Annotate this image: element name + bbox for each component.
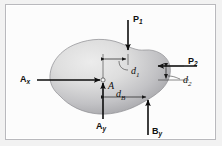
force-label-p1: P1 xyxy=(133,15,143,24)
dimension-label-d2: d2 xyxy=(183,75,192,85)
free-body-diagram-canvas xyxy=(6,5,215,139)
point-label-a: A xyxy=(108,81,114,91)
figure-panel: P1 P2 Ax Ay By A d1 d2 dB xyxy=(5,4,216,140)
dimension-label-d1: d1 xyxy=(131,66,140,76)
dimension-label-db: dB xyxy=(116,89,125,99)
point-a-marker xyxy=(101,78,105,82)
force-label-p2: P2 xyxy=(188,57,198,66)
figure-root: P1 P2 Ax Ay By A d1 d2 dB xyxy=(0,0,222,146)
force-label-by: By xyxy=(152,127,162,136)
force-label-ax: Ax xyxy=(20,75,30,84)
force-label-ay: Ay xyxy=(96,122,106,131)
rigid-body-blob xyxy=(50,39,170,114)
